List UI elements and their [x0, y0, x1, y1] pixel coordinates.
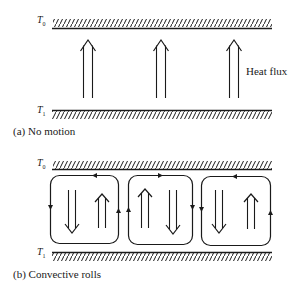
caption-b: (b) Convective rolls	[13, 268, 101, 280]
up-arrow	[244, 194, 258, 229]
temperature-label-bottom-b: T1	[37, 246, 46, 259]
top-plate-b	[52, 161, 272, 170]
flow-arrowhead-right	[268, 210, 273, 215]
heat-flux-arrow-1	[81, 40, 96, 98]
bottom-plate-b	[52, 253, 272, 262]
flow-arrowhead-left	[126, 207, 131, 212]
heat-flux-arrow-3	[227, 40, 242, 98]
convection-roll-3	[199, 174, 273, 246]
heat-flux-label: Heat flux	[246, 65, 287, 77]
up-arrow	[138, 189, 152, 228]
temperature-label-top-a: T0	[37, 14, 46, 27]
flow-arrowhead-left	[48, 205, 53, 210]
flow-arrowhead-left	[199, 207, 204, 212]
flow-arrowhead-right	[116, 208, 121, 213]
flow-arrowhead-top	[92, 173, 97, 178]
convection-roll-1	[48, 173, 121, 244]
caption-a: (a) No motion	[13, 125, 75, 137]
flow-arrowhead-right	[190, 205, 195, 210]
flow-arrowhead-top	[158, 173, 163, 178]
down-arrow	[166, 190, 180, 234]
top-plate-a	[52, 19, 272, 29]
panel-b	[48, 161, 273, 261]
panel-a	[52, 19, 272, 119]
down-arrow	[65, 190, 79, 233]
temperature-label-bottom-a: T1	[37, 104, 46, 117]
convection-roll-2	[126, 173, 195, 245]
heat-flux-arrow-2	[154, 40, 169, 98]
bottom-plate-a	[52, 111, 272, 120]
up-arrow	[95, 194, 109, 228]
temperature-label-top-b: T0	[37, 157, 46, 170]
flow-arrowhead-top	[232, 174, 237, 179]
down-arrow	[212, 190, 226, 233]
